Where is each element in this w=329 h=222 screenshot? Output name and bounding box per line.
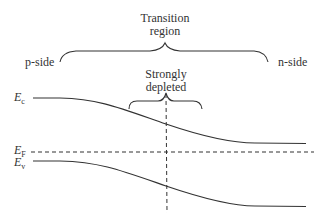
transition-region-label: Transition region [132,12,198,38]
depleted-region-brace [129,93,202,109]
transition-label-line2: region [132,25,198,38]
junction-center-line [166,94,167,213]
ec-label: Ec [14,90,25,106]
conduction-band-curve [33,98,306,144]
strongly-depleted-label: Strongly depleted [136,68,196,94]
transition-region-brace [60,43,268,62]
valence-band-curve [33,161,306,207]
p-side-label: p-side [25,56,54,69]
ev-label: Ev [14,155,25,171]
ev-subscript: v [21,162,25,171]
depleted-label-line2: depleted [136,81,196,94]
ec-subscript: c [21,97,25,106]
n-side-label: n-side [278,56,307,69]
